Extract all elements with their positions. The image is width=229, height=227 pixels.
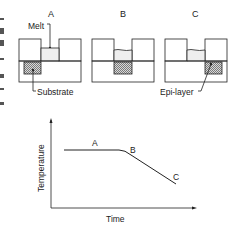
stage-c-label: C bbox=[192, 9, 199, 19]
melt-region bbox=[187, 50, 205, 62]
melt-region bbox=[41, 48, 59, 61]
melt-region bbox=[114, 50, 132, 62]
stage-a-label: A bbox=[48, 9, 54, 19]
epi-layer-callout: Epi-layer bbox=[160, 87, 194, 97]
x-axis-label: Time bbox=[106, 214, 125, 224]
stage-b-label: B bbox=[120, 9, 126, 19]
stage-b-diagram: B bbox=[92, 9, 154, 82]
lpe-diagram: A Melt Substrate B C Epi-layer bbox=[0, 0, 229, 227]
temperature-curve bbox=[64, 150, 176, 184]
graph-point-b-label: B bbox=[130, 145, 136, 155]
y-axis-label: Temperature bbox=[36, 144, 46, 192]
temperature-time-graph: A B C Temperature Time bbox=[36, 118, 197, 224]
substrate-region bbox=[114, 62, 132, 74]
substrate-region bbox=[24, 62, 41, 74]
melt-leader-line bbox=[47, 24, 50, 48]
graph-point-a-label: A bbox=[92, 138, 98, 148]
melt-callout: Melt bbox=[28, 21, 45, 31]
stage-a-diagram: A Melt Substrate bbox=[19, 9, 81, 97]
y-axis-arrow-icon bbox=[50, 118, 53, 123]
x-axis-arrow-icon bbox=[192, 207, 197, 210]
graph-point-c-label: C bbox=[173, 172, 179, 182]
substrate-callout: Substrate bbox=[37, 87, 74, 97]
stage-c-diagram: C Epi-layer bbox=[160, 9, 227, 97]
